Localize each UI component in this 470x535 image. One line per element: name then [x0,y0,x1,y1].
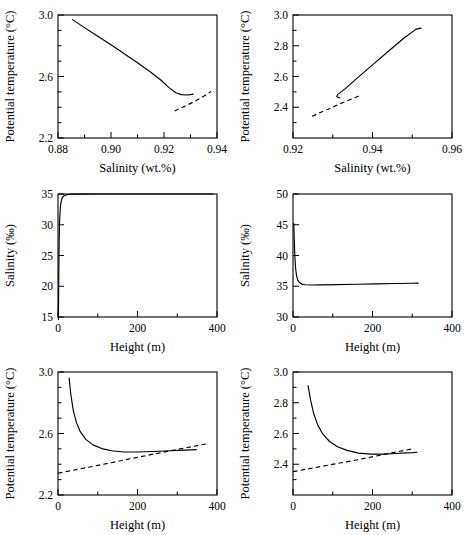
x-tick-label: 200 [129,322,147,334]
x-tick-label: 0.92 [154,143,174,155]
y-axis-label: Potential temperature (°C) [238,367,252,499]
x-tick-label: 0 [290,500,296,512]
series-solid-curve [337,28,421,98]
y-tick-label: 15 [42,311,54,323]
axes-frame [293,194,452,317]
y-tick-label: 3.0 [39,9,54,21]
series-dashed-line [58,443,209,473]
y-tick-label: 3.0 [274,366,289,378]
panel-bottom-right: 02004002.42.62.83.0Height (m)Potential t… [235,357,470,535]
y-tick-label: 20 [42,280,54,292]
x-tick-label: 0.92 [283,143,303,155]
y-tick-label: 2.6 [39,428,54,440]
x-tick-label: 400 [443,500,461,512]
y-axis-label: Salinity (‰) [3,224,17,287]
panel-top-right: 0.920.940.962.42.62.83.0Salinity (wt.%)P… [235,0,470,178]
series-solid-curve [58,194,213,319]
y-axis-label: Potential temperature (°C) [3,10,17,142]
y-tick-label: 35 [42,188,54,200]
y-tick-label: 40 [277,250,289,262]
y-tick-label: 2.6 [274,428,289,440]
axes-frame [58,15,217,138]
x-tick-label: 200 [364,500,382,512]
panel-bottom-left: 02004002.22.63.0Height (m)Potential temp… [0,357,235,535]
y-tick-label: 2.6 [39,71,54,83]
x-tick-label: 0.94 [207,143,227,155]
x-tick-label: 200 [364,322,382,334]
x-tick-label: 400 [208,500,226,512]
x-tick-label: 0 [55,322,61,334]
x-axis-label: Salinity (wt.%) [334,161,410,175]
x-tick-label: 0 [55,500,61,512]
plot-panel-4: 02004003035404550Height (m)Salinity (‰) [235,179,470,357]
figure-container: 0.880.900.920.942.22.63.0Salinity (wt.%)… [0,0,470,535]
y-axis-label: Potential temperature (°C) [238,10,252,142]
y-tick-label: 2.8 [274,40,289,52]
y-tick-label: 30 [277,311,289,323]
y-tick-label: 45 [277,219,289,231]
plot-panel-6: 02004002.42.62.83.0Height (m)Potential t… [235,357,470,535]
plot-panel-1: 0.880.900.920.942.22.63.0Salinity (wt.%)… [0,0,235,178]
x-axis-label: Height (m) [345,518,400,532]
y-tick-label: 2.6 [274,71,289,83]
x-tick-label: 400 [208,322,226,334]
y-tick-label: 50 [277,188,289,200]
x-tick-label: 0.96 [442,143,462,155]
series-dashed-line [312,95,361,116]
y-tick-label: 2.4 [274,101,289,113]
y-tick-label: 3.0 [274,9,289,21]
x-axis-label: Height (m) [110,340,165,354]
x-tick-label: 0.90 [101,143,121,155]
y-tick-label: 2.4 [274,458,289,470]
y-tick-label: 30 [42,219,54,231]
x-axis-label: Height (m) [345,340,400,354]
panel-middle-left: 02004001520253035Height (m)Salinity (‰) [0,179,235,357]
x-tick-label: 200 [129,500,147,512]
series-solid-curve [294,224,418,285]
plot-panel-3: 02004001520253035Height (m)Salinity (‰) [0,179,235,357]
series-solid-curve [73,20,194,95]
x-axis-label: Height (m) [110,518,165,532]
x-tick-label: 0.94 [362,143,382,155]
x-axis-label: Salinity (wt.%) [99,161,175,175]
series-solid-curve [308,386,417,455]
x-tick-label: 0 [290,322,296,334]
plot-panel-5: 02004002.22.63.0Height (m)Potential temp… [0,357,235,535]
x-tick-label: 400 [443,322,461,334]
y-axis-label: Salinity (‰) [238,224,252,287]
y-axis-label: Potential temperature (°C) [3,367,17,499]
x-tick-label: 0.88 [48,143,68,155]
y-tick-label: 3.0 [39,366,54,378]
y-tick-label: 2.2 [39,132,54,144]
axes-frame [293,372,452,495]
y-tick-label: 35 [277,280,289,292]
axes-frame [293,15,452,138]
panel-top-left: 0.880.900.920.942.22.63.0Salinity (wt.%)… [0,0,235,178]
y-tick-label: 2.8 [274,397,289,409]
y-tick-label: 2.2 [39,489,54,501]
y-tick-label: 25 [42,250,54,262]
axes-frame [58,194,217,317]
panel-middle-right: 02004003035404550Height (m)Salinity (‰) [235,179,470,357]
series-solid-curve [69,378,196,452]
plot-panel-2: 0.920.940.962.42.62.83.0Salinity (wt.%)P… [235,0,470,178]
